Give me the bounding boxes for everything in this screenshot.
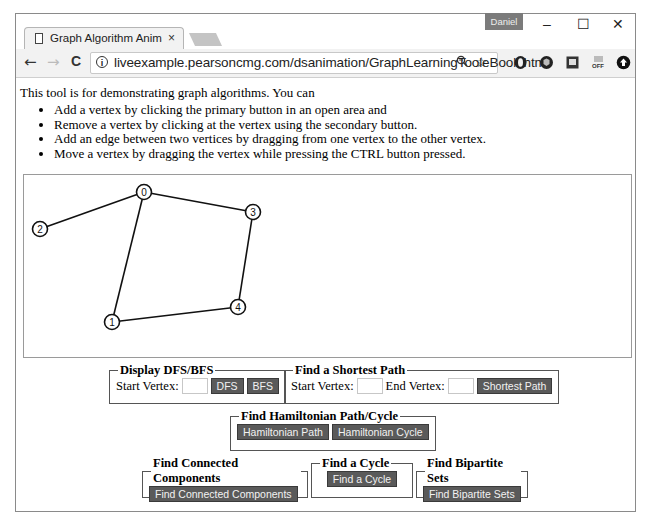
graph-vertex[interactable]: 2 <box>33 222 48 237</box>
graph-edge <box>238 212 253 307</box>
user-profile-badge[interactable]: Daniel <box>485 13 523 30</box>
instruction-list: Add a vertex by clicking the primary but… <box>36 103 486 161</box>
off-icon[interactable]: OFF <box>591 55 606 70</box>
graph-vertex[interactable]: 1 <box>105 315 120 330</box>
graph-canvas[interactable]: 01234 <box>23 174 632 358</box>
shortest-path-panel: Find a Shortest Path Start Vertex: End V… <box>284 363 559 404</box>
shield-icon[interactable] <box>539 55 554 70</box>
connected-components-legend: Find Connected Components <box>151 456 301 486</box>
note-icon[interactable] <box>565 55 580 70</box>
svg-text:2: 2 <box>37 224 43 235</box>
dfs-start-vertex-input[interactable] <box>182 378 208 394</box>
new-tab-button[interactable] <box>189 33 222 46</box>
svg-text:OFF: OFF <box>592 63 604 69</box>
bfs-button[interactable]: BFS <box>247 378 279 394</box>
minimize-button[interactable]: – <box>543 16 551 32</box>
instruction-item: Add a vertex by clicking the primary but… <box>54 103 486 118</box>
svg-text:4: 4 <box>235 302 241 313</box>
instruction-item: Move a vertex by dragging the vertex whi… <box>54 147 486 162</box>
close-window-button[interactable]: ✕ <box>612 16 624 32</box>
find-connected-components-button[interactable]: Find Connected Components <box>149 486 298 502</box>
graph-edge <box>40 192 144 229</box>
browser-window: Graph Algorithm Animat × Daniel – ☐ ✕ ← … <box>15 13 636 512</box>
title-bar: Graph Algorithm Animat × Daniel – ☐ ✕ <box>16 14 635 49</box>
find-cycle-panel: Find a Cycle Find a Cycle <box>311 456 413 498</box>
start-vertex-label: Start Vertex: <box>116 379 179 394</box>
start-vertex-label: Start Vertex: <box>291 379 354 394</box>
svg-text:0: 0 <box>141 187 147 198</box>
tab-title: Graph Algorithm Animat <box>50 32 162 44</box>
graph-vertex[interactable]: 4 <box>231 300 246 315</box>
upload-icon[interactable] <box>616 55 631 70</box>
zoom-magnifier-icon[interactable] <box>456 55 468 70</box>
tab-close-button[interactable]: × <box>168 31 175 45</box>
dfs-button[interactable]: DFS <box>211 378 244 394</box>
bipartite-panel: Find Bipartite Sets Find Bipartite Sets <box>416 456 528 498</box>
instruction-item: Remove a vertex by clicking at the verte… <box>54 118 486 133</box>
dfs-bfs-legend: Display DFS/BFS <box>118 363 215 378</box>
svg-text:1: 1 <box>109 317 115 328</box>
hamiltonian-path-button[interactable]: Hamiltonian Path <box>237 424 329 440</box>
graph-vertex[interactable]: 0 <box>137 185 152 200</box>
shortest-path-button[interactable]: Shortest Path <box>477 378 553 394</box>
browser-tab[interactable]: Graph Algorithm Animat × <box>24 27 184 50</box>
graph-drawing[interactable]: 01234 <box>24 175 631 357</box>
document-icon <box>35 33 43 44</box>
instruction-item: Add an edge between two vertices by drag… <box>54 132 486 147</box>
find-bipartite-sets-button[interactable]: Find Bipartite Sets <box>423 486 521 502</box>
bookmark-star-icon[interactable]: ☆ <box>475 54 488 70</box>
find-cycle-legend: Find a Cycle <box>320 456 391 471</box>
graph-edge <box>112 192 144 322</box>
address-bar[interactable]: i liveexample.pearsoncmg.com/dsanimation… <box>90 52 498 74</box>
hamiltonian-panel: Find Hamiltonian Path/Cycle Hamiltonian … <box>230 409 436 451</box>
shortest-end-vertex-input[interactable] <box>448 378 474 394</box>
bipartite-legend: Find Bipartite Sets <box>425 456 521 486</box>
svg-text:3: 3 <box>250 207 256 218</box>
hamiltonian-legend: Find Hamiltonian Path/Cycle <box>239 409 400 424</box>
graph-edge <box>144 192 253 212</box>
end-vertex-label: End Vertex: <box>386 379 445 394</box>
find-cycle-button[interactable]: Find a Cycle <box>327 471 397 487</box>
hamiltonian-cycle-button[interactable]: Hamiltonian Cycle <box>332 424 429 440</box>
intro-text: This tool is for demonstrating graph alg… <box>20 85 315 101</box>
opera-icon[interactable] <box>513 55 528 70</box>
browser-toolbar: ← → C i liveexample.pearsoncmg.com/dsani… <box>16 49 635 78</box>
dfs-bfs-panel: Display DFS/BFS Start Vertex: DFS BFS <box>109 363 286 404</box>
connected-components-panel: Find Connected Components Find Connected… <box>142 456 308 498</box>
forward-button[interactable]: → <box>47 53 60 71</box>
graph-edge <box>112 307 238 322</box>
reload-button[interactable]: C <box>71 53 81 69</box>
back-button[interactable]: ← <box>24 53 37 71</box>
maximize-button[interactable]: ☐ <box>577 16 590 32</box>
shortest-path-legend: Find a Shortest Path <box>293 363 407 378</box>
info-icon[interactable]: i <box>96 56 108 68</box>
shortest-start-vertex-input[interactable] <box>357 378 383 394</box>
graph-vertex[interactable]: 3 <box>246 205 261 220</box>
